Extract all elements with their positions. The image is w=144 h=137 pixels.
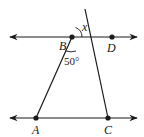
segment-ba xyxy=(36,37,72,118)
label-a: A xyxy=(31,123,40,137)
angle-50-arc xyxy=(66,51,76,52)
label-c: C xyxy=(104,123,113,137)
point-d xyxy=(109,34,114,39)
point-a xyxy=(33,115,38,120)
geometry-diagram: x B D A C 50° xyxy=(0,0,144,137)
label-b: B xyxy=(59,39,67,53)
point-c xyxy=(105,115,110,120)
label-x: x xyxy=(81,20,88,34)
label-angle-50: 50° xyxy=(64,55,79,67)
point-b xyxy=(69,34,74,39)
label-d: D xyxy=(106,41,116,55)
transversal-cb xyxy=(85,9,108,118)
